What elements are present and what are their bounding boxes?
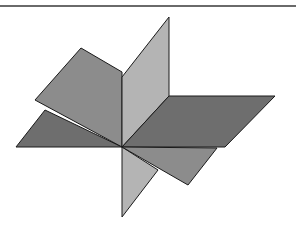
intersecting-planes-figure [0, 0, 296, 231]
diagram-canvas [0, 0, 296, 231]
